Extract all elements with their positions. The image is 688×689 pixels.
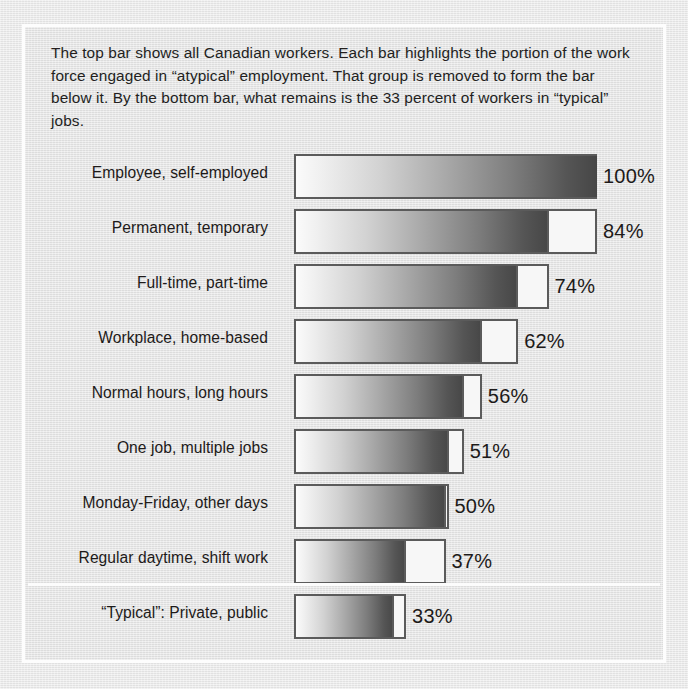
bar-fill-remaining — [296, 211, 549, 252]
bar-value-label: 62% — [520, 319, 565, 364]
bar-fill-remaining — [296, 431, 449, 472]
bar-segment-divider — [516, 266, 518, 307]
bar-row-label: Normal hours, long hours — [92, 369, 268, 417]
bar-track — [294, 264, 549, 309]
bar-row-label: Permanent, temporary — [112, 204, 268, 252]
bar-segment-divider — [392, 596, 394, 637]
bar-row: Regular daytime, shift work37% — [25, 534, 663, 589]
bar-value-label: 56% — [484, 374, 529, 419]
bar-value-label: 51% — [466, 429, 511, 474]
bar-row: Permanent, temporary84% — [25, 204, 663, 259]
summary-separator — [28, 583, 660, 586]
bar-row-label: “Typical”: Private, public — [101, 589, 268, 637]
bar-track — [294, 484, 449, 529]
bar-track — [294, 154, 597, 199]
bar-fill-remaining — [296, 596, 394, 637]
bar-row: Full-time, part-time74% — [25, 259, 663, 314]
bar-value-label: 33% — [408, 594, 453, 639]
bar-segment-divider — [404, 541, 406, 582]
bar-track — [294, 594, 406, 639]
bar-row: One job, multiple jobs51% — [25, 424, 663, 479]
bar-row: Monday-Friday, other days50% — [25, 479, 663, 534]
bar-value-label: 37% — [448, 539, 493, 584]
bar-row-label: One job, multiple jobs — [117, 424, 268, 472]
bar-fill-remaining — [296, 156, 597, 197]
bar-row-label: Employee, self-employed — [92, 149, 268, 197]
bar-row-label: Regular daytime, shift work — [79, 534, 268, 582]
bar-row: “Typical”: Private, public33% — [25, 589, 663, 644]
bar-track — [294, 539, 446, 584]
bar-row-label: Monday-Friday, other days — [82, 479, 268, 527]
bar-row-label: Workplace, home-based — [98, 314, 268, 362]
bar-value-label: 100% — [599, 154, 655, 199]
bar-rows-container: Employee, self-employed100%Permanent, te… — [25, 149, 663, 644]
chart-page: The top bar shows all Canadian workers. … — [0, 0, 688, 689]
bar-fill-remaining — [296, 541, 406, 582]
bar-value-label: 84% — [599, 209, 644, 254]
bar-segment-divider — [480, 321, 482, 362]
bar-value-label: 74% — [551, 264, 596, 309]
bar-fill-remaining — [296, 376, 464, 417]
bar-track — [294, 319, 518, 364]
bar-segment-divider — [444, 486, 446, 527]
bar-row: Normal hours, long hours56% — [25, 369, 663, 424]
chart-caption: The top bar shows all Canadian workers. … — [51, 42, 636, 132]
chart-frame: The top bar shows all Canadian workers. … — [22, 24, 666, 663]
bar-row-label: Full-time, part-time — [137, 259, 268, 307]
bar-segment-divider — [447, 431, 449, 472]
bar-track — [294, 209, 597, 254]
bar-value-label: 50% — [451, 484, 496, 529]
bar-row: Employee, self-employed100% — [25, 149, 663, 204]
bar-fill-remaining — [296, 321, 482, 362]
bar-fill-remaining — [296, 486, 446, 527]
bar-segment-divider — [547, 211, 549, 252]
bar-fill-remaining — [296, 266, 518, 307]
bar-track — [294, 429, 464, 474]
bar-row: Workplace, home-based62% — [25, 314, 663, 369]
bar-segment-divider — [462, 376, 464, 417]
bar-track — [294, 374, 482, 419]
